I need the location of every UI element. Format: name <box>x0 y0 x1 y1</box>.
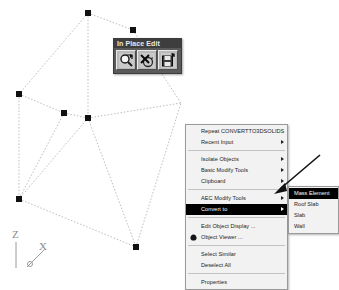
wireframe-edge <box>19 94 64 113</box>
grip-point[interactable] <box>61 110 67 116</box>
submenu-item-label: Slab <box>294 212 305 218</box>
toolbar-title: In Place Edit <box>114 39 181 48</box>
submenu-chevron-icon <box>281 140 284 144</box>
wireframe-edge <box>19 113 64 199</box>
menu-separator <box>188 217 285 219</box>
grip-point[interactable] <box>85 10 91 16</box>
in-place-edit-toolbar[interactable]: In Place Edit <box>113 38 182 74</box>
menu-separator <box>188 273 285 275</box>
menu-item-label: Basic Modify Tools <box>201 167 248 173</box>
menu-item[interactable]: Deselect All <box>186 260 287 271</box>
menu-item[interactable]: Select Similar <box>186 249 287 260</box>
zoom-to-button[interactable] <box>116 50 136 70</box>
menu-item-label: Clipboard <box>201 178 225 184</box>
menu-item[interactable]: Recent Input <box>186 137 287 148</box>
submenu-item-label: Wall <box>294 223 305 229</box>
wireframe-edge <box>88 103 181 118</box>
annotation-arrow <box>268 152 326 196</box>
save-changes-button[interactable] <box>158 50 178 70</box>
grip-point[interactable] <box>16 196 22 202</box>
menu-item-label: Repeat CONVERTTO3DSOLIDS <box>201 128 284 134</box>
ucs-axis-lines <box>10 228 60 272</box>
wireframe-edge <box>88 13 133 30</box>
discard-x-icon <box>140 53 155 68</box>
wireframe-edge <box>19 118 88 199</box>
grip-point[interactable] <box>133 244 139 250</box>
menu-item-label: Deselect All <box>201 262 231 268</box>
menu-item-label: Select Similar <box>201 251 236 257</box>
menu-item-label: Properties <box>201 279 227 285</box>
menu-item-label: Object Viewer ... <box>201 234 243 240</box>
submenu-chevron-icon <box>281 196 284 200</box>
discard-changes-button[interactable] <box>137 50 157 70</box>
grip-point[interactable] <box>130 27 136 33</box>
ucs-axis-icon: Z X <box>10 228 60 272</box>
grip-point[interactable] <box>85 115 91 121</box>
menu-item-label: Edit Object Display ... <box>201 223 256 229</box>
wireframe-edge <box>136 103 181 247</box>
wireframe-edge <box>19 13 88 94</box>
object-viewer-icon <box>190 234 197 241</box>
submenu-item[interactable]: Wall <box>289 221 338 232</box>
save-disk-icon <box>161 53 176 68</box>
menu-item-label: Convert to <box>201 206 227 212</box>
context-menu[interactable]: Repeat CONVERTTO3DSOLIDSRecent InputIsol… <box>185 124 288 290</box>
menu-item-label: Recent Input <box>201 139 233 145</box>
menu-item-label: Isolate Objects <box>201 156 239 162</box>
menu-separator <box>188 245 285 247</box>
submenu-chevron-icon <box>281 207 284 211</box>
submenu-item[interactable]: Roof Slab <box>289 199 338 210</box>
menu-item[interactable]: Properties <box>186 277 287 288</box>
magnifier-icon <box>119 53 134 68</box>
submenu-item[interactable]: Slab <box>289 210 338 221</box>
menu-item-label: AEC Modify Tools <box>201 195 246 201</box>
menu-item[interactable]: Repeat CONVERTTO3DSOLIDS <box>186 126 287 137</box>
menu-item[interactable]: Edit Object Display ... <box>186 221 287 232</box>
submenu-item-label: Roof Slab <box>294 201 319 207</box>
menu-item[interactable]: Convert to <box>186 204 287 215</box>
grip-point[interactable] <box>16 91 22 97</box>
wireframe-edge <box>64 113 88 118</box>
wireframe-edge <box>88 118 136 247</box>
menu-item[interactable]: Object Viewer ... <box>186 232 287 243</box>
toolbar-button-group <box>114 48 181 72</box>
